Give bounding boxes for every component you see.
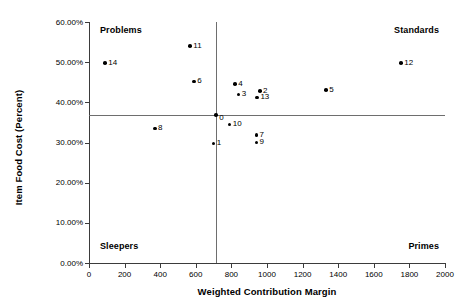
data-point-label: 13 <box>260 93 269 101</box>
x-tick-label: 600 <box>176 270 216 279</box>
y-tick-label: 20.00% <box>31 178 83 187</box>
data-point[interactable] <box>212 142 216 146</box>
data-point-label: 1 <box>217 139 221 147</box>
x-tick <box>338 264 339 268</box>
y-tick <box>85 143 89 144</box>
origin-point-label: 0 <box>219 114 223 122</box>
y-axis-title: Item Food Cost (Percent) <box>13 38 24 258</box>
x-tick-label: 1000 <box>247 270 287 279</box>
y-tick <box>85 183 89 184</box>
scatter-chart: Item Food Cost (Percent) Weighted Contri… <box>0 0 475 307</box>
data-point-label: 14 <box>108 59 117 67</box>
x-tick <box>89 264 90 268</box>
data-point-label: 3 <box>242 90 246 98</box>
x-tick-label: 1200 <box>283 270 323 279</box>
y-tick <box>85 223 89 224</box>
data-point[interactable] <box>255 96 259 100</box>
data-point-label: 8 <box>158 124 162 132</box>
x-tick-label: 0 <box>69 270 109 279</box>
y-tick-label: 30.00% <box>31 138 83 147</box>
x-tick <box>445 264 446 268</box>
data-point-label: 6 <box>197 77 201 85</box>
y-tick-label: 0.00% <box>31 259 83 268</box>
data-point[interactable] <box>192 80 196 84</box>
x-axis-title: Weighted Contribution Margin <box>89 286 445 297</box>
data-point[interactable] <box>255 133 259 137</box>
x-tick-label: 400 <box>140 270 180 279</box>
y-axis-line <box>89 22 90 264</box>
x-tick <box>267 264 268 268</box>
x-tick <box>409 264 410 268</box>
data-point-label: 9 <box>260 138 264 146</box>
x-tick-label: 2000 <box>425 270 465 279</box>
quadrant-label-sleepers: Sleepers <box>100 241 158 251</box>
y-tick-label: 10.00% <box>31 218 83 227</box>
x-tick-label: 200 <box>105 270 145 279</box>
data-point[interactable] <box>324 88 328 92</box>
y-tick-label: 40.00% <box>31 98 83 107</box>
data-point-label: 11 <box>193 42 201 50</box>
x-tick <box>125 264 126 268</box>
y-tick-label: 60.00% <box>31 18 83 27</box>
quadrant-label-problems: Problems <box>100 25 158 35</box>
x-tick-label: 1600 <box>354 270 394 279</box>
x-tick <box>303 264 304 268</box>
data-point[interactable] <box>188 44 192 48</box>
x-tick <box>231 264 232 268</box>
data-point-label: 12 <box>404 59 413 67</box>
quadrant-horizontal-line <box>89 115 445 116</box>
quadrant-label-standards: Standards <box>381 25 439 35</box>
origin-point[interactable] <box>214 113 218 117</box>
data-point-label: 10 <box>233 120 242 128</box>
data-point[interactable] <box>233 82 237 86</box>
data-point[interactable] <box>237 93 241 97</box>
data-point[interactable] <box>399 61 403 65</box>
x-tick <box>374 264 375 268</box>
data-point[interactable] <box>228 123 232 127</box>
data-point[interactable] <box>153 127 157 131</box>
x-tick-label: 800 <box>211 270 251 279</box>
y-tick <box>85 102 89 103</box>
y-tick <box>85 62 89 63</box>
x-tick-label: 1800 <box>389 270 429 279</box>
x-tick-label: 1400 <box>318 270 358 279</box>
data-point-label: 5 <box>329 86 333 94</box>
data-point[interactable] <box>103 61 107 65</box>
data-point[interactable] <box>255 141 259 145</box>
x-tick <box>160 264 161 268</box>
y-tick <box>85 22 89 23</box>
data-point-label: 4 <box>238 80 242 88</box>
x-tick <box>196 264 197 268</box>
y-tick-label: 50.00% <box>31 58 83 67</box>
quadrant-label-primes: Primes <box>381 241 439 251</box>
